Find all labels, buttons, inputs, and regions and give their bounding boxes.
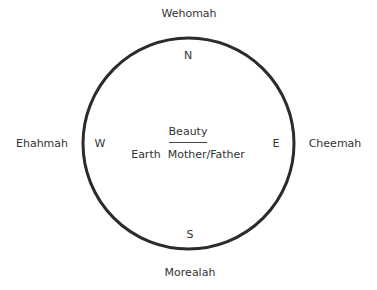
label-wehomah: Wehomah (161, 7, 216, 20)
label-n: N (184, 49, 192, 62)
center-bottom-text: Earth Mother/Father (131, 148, 245, 161)
label-morealah: Morealah (165, 266, 216, 279)
label-e: E (273, 137, 280, 150)
label-ehahmah: Ehahmah (16, 137, 68, 150)
label-w: W (95, 137, 106, 150)
center-top-text: Beauty (169, 125, 208, 138)
divider-line (169, 142, 207, 143)
label-s: S (187, 228, 194, 241)
label-cheemah: Cheemah (309, 137, 362, 150)
